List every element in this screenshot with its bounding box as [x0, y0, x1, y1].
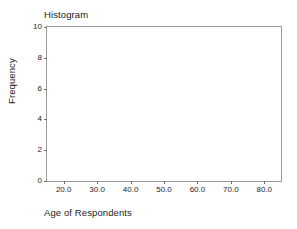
- y-axis-tick: [44, 119, 47, 120]
- y-axis-tick: [44, 181, 47, 182]
- chart-title: Histogram: [44, 9, 88, 21]
- x-axis-tick: [64, 181, 65, 184]
- x-axis-tick-label: 60.0: [190, 186, 206, 194]
- x-axis-tick: [264, 181, 265, 184]
- x-axis-tick: [164, 181, 165, 184]
- x-axis-tick-label: 40.0: [123, 186, 139, 194]
- y-axis-tick: [44, 58, 47, 59]
- y-axis-tick: [44, 150, 47, 151]
- x-axis-tick: [97, 181, 98, 184]
- y-axis-title: Frequency: [6, 58, 18, 104]
- x-axis-tick-label: 70.0: [223, 186, 239, 194]
- plot-area: [47, 27, 281, 181]
- y-axis-tick: [44, 89, 47, 90]
- y-axis-tick-label: 10: [33, 23, 42, 31]
- y-axis-tick: [44, 27, 47, 28]
- plot-frame: 0246810 20.030.040.050.060.070.080.0: [46, 26, 282, 182]
- x-axis-tick-label: 30.0: [89, 186, 105, 194]
- x-axis-title: Age of Respondents: [44, 207, 132, 219]
- x-axis-tick: [231, 181, 232, 184]
- x-axis-tick: [197, 181, 198, 184]
- y-axis-tick-label: 4: [38, 115, 42, 123]
- x-axis-tick: [131, 181, 132, 184]
- y-axis-tick-label: 0: [38, 177, 42, 185]
- y-axis-tick-label: 2: [38, 146, 42, 154]
- histogram-chart: Histogram 0246810 20.030.040.050.060.070…: [0, 0, 297, 229]
- x-axis-tick-label: 50.0: [156, 186, 172, 194]
- y-axis-tick-label: 8: [38, 54, 42, 62]
- y-axis-tick-label: 6: [38, 85, 42, 93]
- x-axis-tick-label: 20.0: [56, 186, 72, 194]
- x-axis-tick-label: 80.0: [256, 186, 272, 194]
